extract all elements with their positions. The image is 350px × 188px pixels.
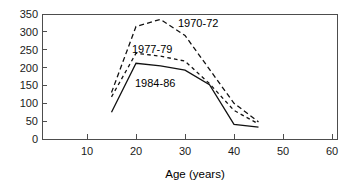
y-tick-label-350: 350 [20, 8, 38, 20]
x-axis-ticks [87, 134, 332, 139]
chart-svg: 0 50 100 150 200 250 300 350 10 20 30 40… [0, 0, 350, 188]
y-tick-label-150: 150 [20, 79, 38, 91]
y-axis-ticks [42, 14, 47, 139]
series-line-1984-86 [112, 63, 259, 127]
x-axis-title: Age (years) [165, 168, 225, 180]
x-tick-label-60: 60 [326, 145, 338, 157]
y-tick-label-200: 200 [20, 62, 38, 74]
series-label-1970-72: 1970-72 [178, 17, 218, 29]
x-tick-label-10: 10 [81, 145, 93, 157]
line-chart: 0 50 100 150 200 250 300 350 10 20 30 40… [0, 0, 350, 188]
y-tick-label-0: 0 [32, 133, 38, 145]
series-annotations: 1970-72 1977-79 1984-86 [132, 17, 218, 89]
series-line-1977-79 [112, 53, 259, 124]
x-axis-labels: 10 20 30 40 50 60 [81, 145, 338, 157]
y-tick-label-50: 50 [26, 115, 38, 127]
plot-frame [42, 14, 337, 139]
x-tick-label-20: 20 [130, 145, 142, 157]
y-axis-labels: 0 50 100 150 200 250 300 350 [20, 8, 38, 145]
y-tick-label-300: 300 [20, 26, 38, 38]
y-tick-label-100: 100 [20, 97, 38, 109]
series-label-1977-79: 1977-79 [132, 43, 172, 55]
series-group [112, 19, 259, 127]
x-tick-label-40: 40 [228, 145, 240, 157]
x-tick-label-50: 50 [277, 145, 289, 157]
series-label-1984-86: 1984-86 [135, 77, 175, 89]
y-tick-label-250: 250 [20, 44, 38, 56]
x-tick-label-30: 30 [179, 145, 191, 157]
